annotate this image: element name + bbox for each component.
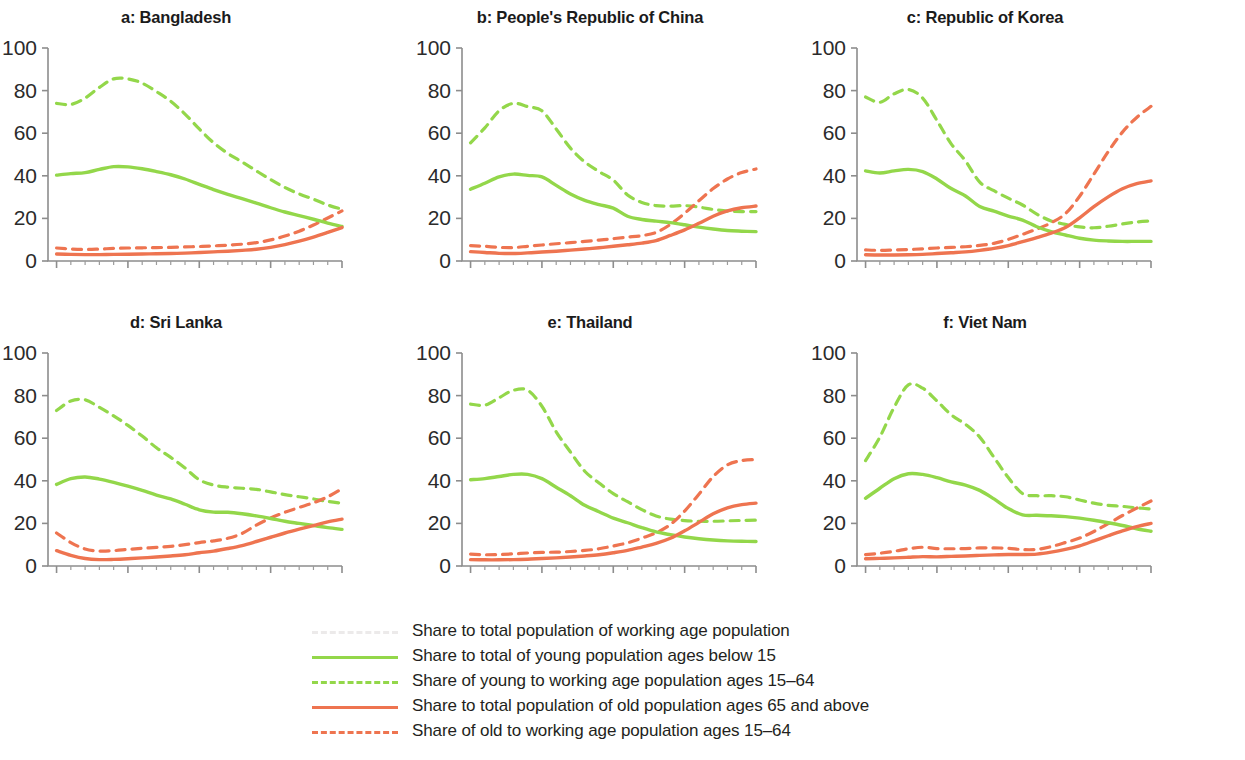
panel-title-d: d: Sri Lanka <box>0 313 352 332</box>
legend-label: Share to total of young population ages … <box>412 646 776 666</box>
panel-e: e: Thailand02040608010019501975200020252… <box>414 313 766 583</box>
x-tick-label: 2000 <box>590 579 637 583</box>
axis-lines <box>462 353 756 566</box>
x-tick-label: 2025 <box>247 274 294 278</box>
x-tick-label: 2050 <box>733 579 766 583</box>
panel-title-a: a: Bangladesh <box>0 8 352 27</box>
panel-title-e: e: Thailand <box>414 313 766 332</box>
x-tick-label: 1975 <box>105 274 152 278</box>
y-tick-label: 80 <box>428 79 451 102</box>
legend-item: Share to total of young population ages … <box>312 643 972 668</box>
y-tick-label: 20 <box>14 206 37 229</box>
series-a-1 <box>57 78 342 209</box>
plot-area-e: 02040608010019501975200020252050 <box>414 331 766 583</box>
x-tick-label: 1975 <box>914 579 961 583</box>
series-e-2 <box>471 503 756 560</box>
x-tick-label: 1975 <box>105 579 152 583</box>
x-tick-label: 1950 <box>33 274 80 278</box>
y-tick-label: 80 <box>14 79 37 102</box>
y-tick-label: 20 <box>823 206 846 229</box>
y-tick-label: 100 <box>416 36 451 59</box>
series-e-0 <box>471 474 756 541</box>
legend-item: Share of old to working age population a… <box>312 718 972 743</box>
y-tick-label: 40 <box>823 469 846 492</box>
x-tick-label: 2000 <box>176 579 223 583</box>
y-tick-label: 0 <box>834 249 846 272</box>
x-tick-label: 1950 <box>842 579 889 583</box>
series-b-0 <box>471 174 756 232</box>
legend-swatch-old-share-total <box>312 699 398 713</box>
figure-root: a: Bangladesh020406080100195019752000202… <box>0 0 1245 760</box>
x-tick-label: 2000 <box>985 579 1032 583</box>
y-tick-label: 40 <box>428 469 451 492</box>
y-tick-label: 80 <box>428 384 451 407</box>
x-tick-label: 1950 <box>842 274 889 278</box>
y-tick-label: 0 <box>439 249 451 272</box>
x-tick-label: 1950 <box>447 579 494 583</box>
y-tick-label: 100 <box>2 341 37 364</box>
x-tick-label: 2000 <box>985 274 1032 278</box>
y-tick-label: 60 <box>428 426 451 449</box>
series-c-0 <box>866 169 1151 241</box>
x-tick-label: 1975 <box>519 274 566 278</box>
panel-title-b: b: People's Republic of China <box>414 8 766 27</box>
y-tick-label: 80 <box>823 384 846 407</box>
y-tick-label: 60 <box>428 121 451 144</box>
x-tick-label: 2025 <box>661 579 708 583</box>
y-tick-label: 40 <box>14 164 37 187</box>
plot-area-a: 02040608010019501975200020252050 <box>0 26 352 278</box>
panel-a: a: Bangladesh020406080100195019752000202… <box>0 8 352 278</box>
plot-area-d: 02040608010019501975200020252050 <box>0 331 352 583</box>
x-tick-label: 1950 <box>447 274 494 278</box>
plot-area-b: 02040608010019501975200020252050 <box>414 26 766 278</box>
series-f-1 <box>866 384 1151 509</box>
y-tick-label: 60 <box>823 426 846 449</box>
series-d-2 <box>57 519 342 560</box>
x-tick-label: 2000 <box>176 274 223 278</box>
legend-label: Share of young to working age population… <box>412 671 814 691</box>
x-tick-label: 2025 <box>1056 274 1103 278</box>
y-tick-label: 40 <box>823 164 846 187</box>
series-e-1 <box>471 389 756 522</box>
legend-swatch-old-to-working <box>312 724 398 738</box>
x-tick-label: 1975 <box>519 579 566 583</box>
y-tick-label: 20 <box>428 511 451 534</box>
legend-item: Share to total population of old populat… <box>312 693 972 718</box>
legend-item: Share to total population of working age… <box>312 618 972 643</box>
series-d-1 <box>57 399 342 503</box>
panel-f: f: Viet Nam02040608010019501975200020252… <box>809 313 1161 583</box>
legend-swatch-young-share-total <box>312 649 398 663</box>
panel-d: d: Sri Lanka0204060801001950197520002025… <box>0 313 352 583</box>
x-tick-label: 2050 <box>733 274 766 278</box>
panel-c: c: Republic of Korea02040608010019501975… <box>809 8 1161 278</box>
x-tick-label: 2025 <box>661 274 708 278</box>
y-tick-label: 20 <box>14 511 37 534</box>
chart-legend: Share to total population of working age… <box>312 618 972 743</box>
legend-swatch-working-age <box>312 624 398 638</box>
x-tick-label: 2025 <box>247 579 294 583</box>
panel-b: b: People's Republic of China02040608010… <box>414 8 766 278</box>
y-tick-label: 60 <box>14 426 37 449</box>
series-a-0 <box>57 166 342 226</box>
y-tick-label: 80 <box>823 79 846 102</box>
plot-area-f: 02040608010019501975200020252050 <box>809 331 1161 583</box>
series-c-2 <box>866 181 1151 255</box>
axis-lines <box>857 353 1151 566</box>
legend-item: Share of young to working age population… <box>312 668 972 693</box>
series-f-2 <box>866 523 1151 558</box>
legend-swatch-young-to-working <box>312 674 398 688</box>
x-tick-label: 2050 <box>319 579 352 583</box>
legend-label: Share to total population of working age… <box>412 621 790 641</box>
x-tick-label: 2025 <box>1056 579 1103 583</box>
legend-label: Share of old to working age population a… <box>412 721 791 741</box>
series-f-0 <box>866 473 1151 531</box>
y-tick-label: 80 <box>14 384 37 407</box>
y-tick-label: 100 <box>811 36 846 59</box>
x-tick-label: 2050 <box>1128 274 1161 278</box>
y-tick-label: 100 <box>2 36 37 59</box>
series-d-0 <box>57 477 342 529</box>
series-c-1 <box>866 89 1151 227</box>
plot-area-c: 02040608010019501975200020252050 <box>809 26 1161 278</box>
y-tick-label: 0 <box>25 249 37 272</box>
x-tick-label: 1950 <box>33 579 80 583</box>
